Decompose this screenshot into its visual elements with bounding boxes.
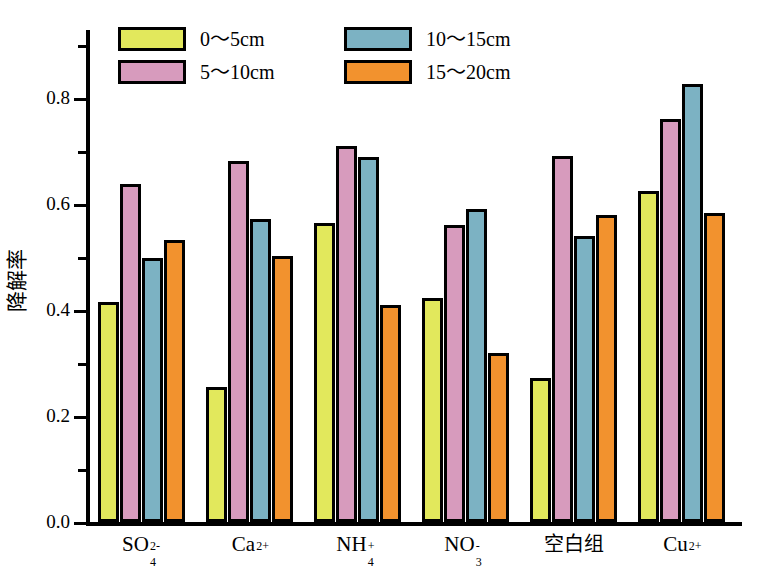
bar <box>120 184 141 522</box>
bar <box>704 213 725 522</box>
bar <box>358 157 379 522</box>
category-label: Cu2+ <box>608 532 755 556</box>
bar <box>164 240 185 522</box>
bar <box>336 146 357 522</box>
bar <box>530 378 551 522</box>
bar <box>488 353 509 522</box>
bar <box>660 119 681 522</box>
bar <box>142 258 163 522</box>
bar <box>638 191 659 522</box>
bar <box>250 219 271 522</box>
bar <box>206 387 227 522</box>
bar <box>574 236 595 522</box>
bar <box>380 305 401 522</box>
bar <box>422 298 443 522</box>
bar <box>228 161 249 522</box>
bar <box>466 209 487 522</box>
bar <box>272 256 293 522</box>
bar <box>552 156 573 522</box>
bar <box>596 215 617 522</box>
bar <box>98 302 119 522</box>
bar-chart: 0～5cm 5～10cm 10～15cm 15～20cm 0.00.20.40.… <box>0 0 759 580</box>
bar <box>314 223 335 522</box>
bar <box>682 84 703 522</box>
bars-layer <box>0 0 759 580</box>
bar <box>444 225 465 522</box>
